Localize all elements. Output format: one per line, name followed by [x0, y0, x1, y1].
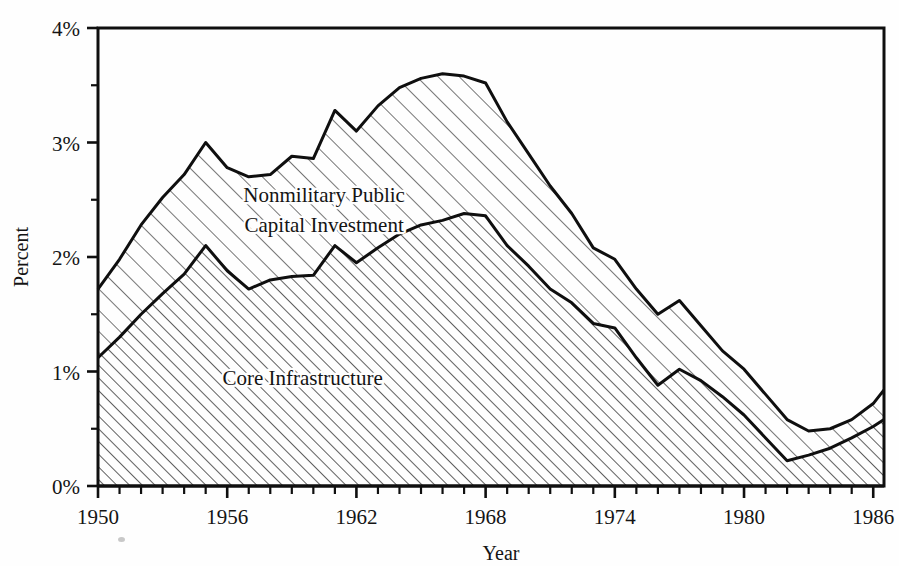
plot-area [98, 74, 884, 486]
y-axis-tick-labels: 0%1%2%3%4% [52, 17, 80, 499]
x-tick-label: 1962 [335, 505, 377, 529]
lower-band-label-line: Core Infrastructure [222, 366, 382, 390]
x-axis-tick-labels: 1950195619621968197419801986 [77, 505, 894, 529]
y-tick-label: 3% [52, 132, 80, 156]
y-axis-title: Percent [10, 227, 32, 287]
x-tick-label: 1968 [465, 505, 507, 529]
y-tick-label: 2% [52, 246, 80, 270]
y-axis-ticks [87, 28, 98, 486]
area-chart: 0%1%2%3%4% 1950195619621968197419801986 … [0, 0, 899, 566]
lower-band-label: Core Infrastructure [222, 366, 382, 390]
x-tick-label: 1950 [77, 505, 119, 529]
x-axis-ticks [98, 486, 884, 498]
x-tick-label: 1986 [852, 505, 894, 529]
x-tick-label: 1956 [206, 505, 248, 529]
upper-band-label-line: Nonmilitary Public [243, 183, 405, 207]
scan-speck [118, 537, 125, 542]
x-tick-label: 1974 [594, 505, 637, 529]
x-tick-label: 1980 [723, 505, 765, 529]
chart-canvas: 0%1%2%3%4% 1950195619621968197419801986 … [0, 0, 899, 566]
x-axis-title: Year [483, 542, 520, 564]
y-tick-label: 1% [52, 361, 80, 385]
y-tick-label: 0% [52, 475, 80, 499]
upper-band-label-line: Capital Investment [245, 213, 404, 237]
y-tick-label: 4% [52, 17, 80, 41]
